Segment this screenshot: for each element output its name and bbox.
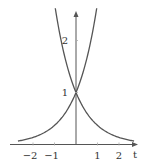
x-axis-arrow-icon (132, 142, 138, 147)
x-tick-label: −1 (44, 150, 59, 161)
x-tick-label: 2 (116, 150, 122, 161)
curve-exp-neg-t (55, 8, 134, 141)
curve-exp-t (18, 8, 97, 141)
x-ticks: −2−112 (23, 143, 123, 161)
x-tick-label: −2 (23, 150, 38, 161)
y-axis-arrow-icon (74, 11, 79, 17)
x-tick-label: 1 (94, 150, 100, 161)
y-tick-label: 1 (62, 87, 68, 98)
exponential-plot: −2−112 12 t (0, 0, 147, 166)
y-tick-label: 2 (62, 35, 68, 46)
x-axis-label: t (133, 149, 137, 160)
